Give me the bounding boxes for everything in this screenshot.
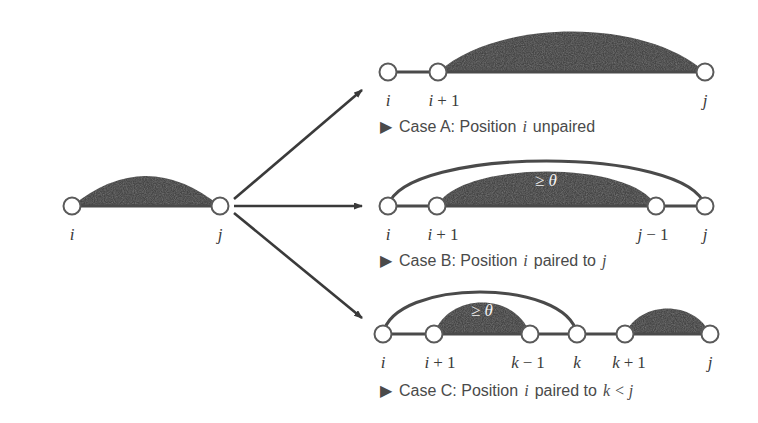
case-b-node-i [380, 198, 397, 215]
case-c-node-k-minus-1 [522, 326, 539, 343]
case-a-label-i: i [386, 91, 391, 110]
arrow-group [234, 90, 362, 318]
case-c-label-j: j [706, 353, 713, 372]
case-b-label-i: i [386, 225, 391, 244]
case-a-node-i [380, 64, 397, 81]
case-b-caption: ▶Case B: Positionipaired toj [380, 252, 607, 270]
case-b-label-i-plus-1: i+1 [428, 225, 459, 244]
case-a-node-i-plus-1 [430, 64, 447, 81]
case-c-label-k-plus-1: k+1 [612, 353, 646, 372]
case-c-label-i-plus-1: i+1 [425, 353, 456, 372]
source-label-j: j [216, 225, 223, 244]
case-b-bullet-icon: ▶ [380, 252, 393, 269]
case-a-caption: ▶Case A: Positioniunpaired [380, 118, 595, 135]
case-c-node-k [569, 326, 586, 343]
case-a-panel: i i+1 j ▶Case A: Positioniunpaired [380, 32, 714, 136]
case-c-label-k-minus-1: k−1 [511, 353, 545, 372]
case-c-theta-label: ≥ θ [471, 301, 493, 320]
case-b-node-j-minus-1 [648, 198, 665, 215]
case-c-shaded-region-right [625, 309, 710, 335]
case-c-caption: ▶Case C: Positionipaired tok < j [380, 382, 634, 400]
case-c-panel: ≥ θ i i+1 k−1 k k+1 j ▶Case C: Positioni… [375, 292, 719, 400]
case-c-node-j [702, 326, 719, 343]
case-c-node-i [375, 326, 392, 343]
case-b-label-j: j [701, 225, 708, 244]
case-b-theta-label: ≥ θ [535, 171, 557, 190]
arrow-to-case-a [234, 90, 362, 199]
arrow-to-case-c [234, 213, 362, 318]
case-b-node-i-plus-1 [429, 198, 446, 215]
case-b-panel: ≥ θ i i+1 j−1 j ▶Case B: Positionipaired… [380, 161, 714, 270]
source-node-i [64, 198, 81, 215]
case-c-node-k-plus-1 [617, 326, 634, 343]
case-c-node-i-plus-1 [426, 326, 443, 343]
case-b-node-j [697, 198, 714, 215]
source-structure: i j [64, 176, 229, 244]
case-a-label-i-plus-1: i+1 [429, 91, 460, 110]
case-c-bullet-icon: ▶ [380, 382, 393, 399]
case-a-bullet-icon: ▶ [380, 118, 393, 135]
case-a-shaded-region [438, 32, 705, 73]
case-c-label-k: k [573, 353, 581, 372]
case-b-label-j-minus-1: j−1 [636, 225, 669, 244]
case-decomposition-diagram: i j i i+1 j ▶Case A: Positioniunpaired [0, 0, 758, 423]
source-node-j [212, 198, 229, 215]
source-shaded-region [72, 176, 220, 206]
source-label-i: i [70, 225, 75, 244]
case-a-label-j: j [701, 91, 708, 110]
case-c-label-i: i [381, 353, 386, 372]
case-a-node-j [697, 64, 714, 81]
